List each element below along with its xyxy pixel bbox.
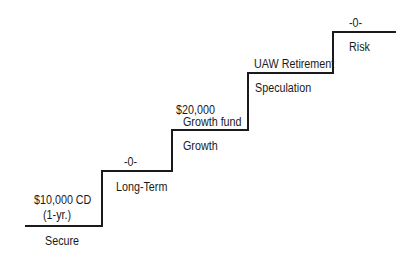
step-1-holding-amount: $10,000 CD <box>34 194 91 207</box>
step-3-holding-name: Growth fund <box>183 116 242 129</box>
step-1-holding-term: (1-yr.) <box>43 209 71 222</box>
step-2-level-label: Long-Term <box>116 181 167 194</box>
step-1-level-label: Secure <box>45 235 79 248</box>
step-4-level-label: Speculation <box>255 82 311 95</box>
step-5-holding-amount: -0- <box>349 17 362 30</box>
step-3-level-label: Growth <box>183 140 218 153</box>
step-5-level-label: Risk <box>349 41 370 54</box>
step-4-holding-name: UAW Retirement <box>254 58 334 71</box>
investment-staircase-diagram: $10,000 CD (1-yr.) Secure -0- Long-Term … <box>0 0 420 261</box>
step-2-holding-amount: -0- <box>124 156 137 169</box>
